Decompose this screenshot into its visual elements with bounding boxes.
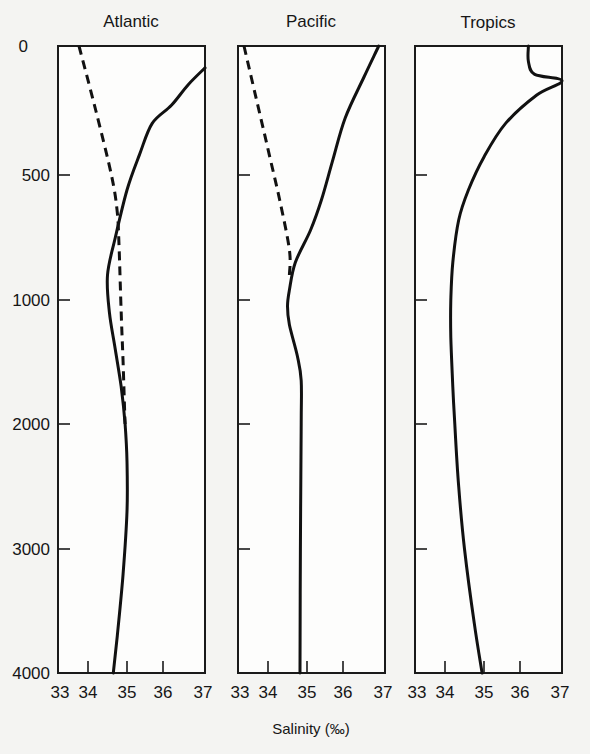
- x-tick-label: 36: [334, 683, 353, 702]
- plot-frame: [58, 46, 205, 673]
- y-tick-label: 3000: [12, 540, 50, 559]
- x-tick-label: 34: [436, 683, 455, 702]
- x-tick-label: 35: [298, 683, 317, 702]
- y-tick-label: 500: [22, 166, 50, 185]
- depth-axis-labels: 0 500 1000 2000 3000 4000: [12, 37, 50, 683]
- y-tick-label: 1000: [12, 291, 50, 310]
- x-tick-label: 37: [551, 683, 570, 702]
- y-tick-label: 2000: [12, 415, 50, 434]
- x-tick-label: 37: [194, 683, 213, 702]
- panel-atlantic: Atlantic 3334353637: [51, 12, 213, 702]
- x-tick-label: 37: [374, 683, 393, 702]
- x-tick-label: 33: [51, 683, 70, 702]
- x-tick-label: 34: [79, 683, 98, 702]
- panel-tropics: Tropics 3334353637: [408, 13, 570, 702]
- salinity-profiles-chart: 0 500 1000 2000 3000 4000 Atlantic 33343…: [0, 0, 590, 754]
- x-tick-label: 34: [259, 683, 278, 702]
- x-tick-label: 33: [231, 683, 250, 702]
- salinity-depth-figure: 0 500 1000 2000 3000 4000 Atlantic 33343…: [0, 0, 590, 754]
- x-tick-label: 35: [118, 683, 137, 702]
- panel-title: Pacific: [286, 12, 337, 31]
- panel-pacific: Pacific 3334353637: [231, 12, 393, 702]
- x-tick-label: 35: [475, 683, 494, 702]
- x-tick-label: 33: [408, 683, 427, 702]
- y-tick-label: 4000: [12, 664, 50, 683]
- panel-title: Atlantic: [103, 12, 159, 31]
- plot-frame: [238, 46, 385, 673]
- x-axis-label: Salinity (‰): [272, 720, 350, 737]
- x-tick-label: 36: [511, 683, 530, 702]
- plot-frame: [415, 46, 562, 673]
- y-tick-label: 0: [19, 37, 28, 56]
- panel-title: Tropics: [460, 13, 515, 32]
- x-tick-label: 36: [154, 683, 173, 702]
